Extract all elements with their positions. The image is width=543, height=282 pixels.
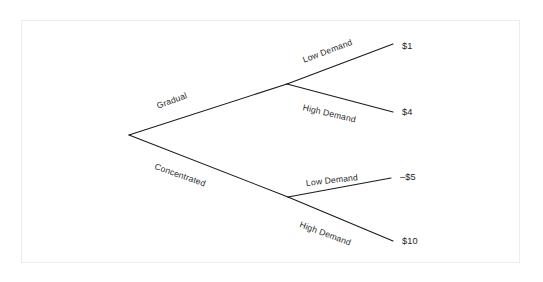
decision-tree-lines [0, 0, 543, 282]
payoff-gradual-high-demand: $4 [402, 107, 412, 117]
edge-concentrated [129, 135, 288, 197]
payoff-gradual-low-demand: $1 [402, 41, 412, 51]
diagram-canvas: Gradual Concentrated Low Demand High Dem… [0, 0, 543, 282]
payoff-concentrated-high-demand: $10 [402, 236, 418, 246]
payoff-concentrated-low-demand: –$5 [400, 172, 416, 182]
edge-gradual [129, 84, 287, 135]
